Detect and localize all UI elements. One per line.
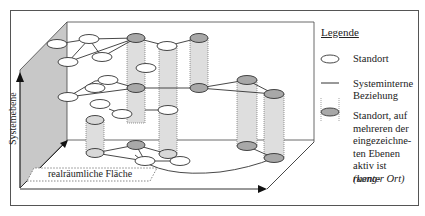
legend-title: Legende: [321, 26, 359, 39]
horizontal-axis-label: realräumliche Fläche: [48, 168, 132, 179]
vertical-axis-label: Systemebene: [7, 75, 18, 145]
legend-standort-icon: [321, 55, 339, 63]
legend-kongruenter-ort-icon: [321, 108, 339, 116]
horizontal-axis-arrowhead: [258, 185, 267, 193]
